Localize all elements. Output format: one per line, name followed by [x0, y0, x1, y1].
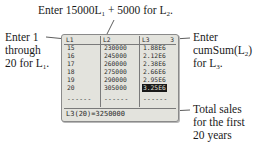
cell-l1[interactable]: 19	[64, 76, 100, 84]
column-l1: 15 16 17 18 19 20 ------	[64, 44, 101, 107]
header-l3[interactable]: L33	[140, 36, 176, 44]
list-data-grid: 15 16 17 18 19 20 ------ 230000 245000 2…	[64, 44, 176, 107]
annotation-enter-l1: Enter 1 through 20 for L1.	[5, 31, 49, 70]
cell-l2[interactable]: 305000	[101, 84, 139, 92]
cell-l1[interactable]: 20	[64, 84, 100, 92]
annotation-enter-l2: Enter 15000L1 + 5000 for L2.	[38, 4, 173, 17]
cell-l3[interactable]: 1.88E6	[140, 44, 176, 52]
cell-l3[interactable]: 2.12E6	[140, 52, 176, 60]
cell-l1[interactable]: 18	[64, 68, 100, 76]
column-number: 3	[170, 36, 174, 43]
cell-l3[interactable]: 2.66E6	[140, 68, 176, 76]
cell-l1[interactable]: 17	[64, 60, 100, 68]
cell-l2[interactable]: 290000	[101, 76, 139, 84]
status-line: L3(20)=3250000	[64, 108, 176, 119]
column-l3: 1.88E6 2.12E6 2.38E6 2.66E6 2.95E6 3.25E…	[140, 44, 176, 107]
cell-l2[interactable]: 275000	[101, 68, 139, 76]
empty-row-dashes: ------	[67, 95, 92, 102]
header-l2[interactable]: L2	[101, 36, 140, 44]
cell-l3-selected[interactable]: 3.25E6	[142, 84, 167, 92]
empty-row-dashes: ------	[104, 95, 129, 102]
cell-l1[interactable]: 15	[64, 44, 100, 52]
column-l2: 230000 245000 260000 275000 290000 30500…	[101, 44, 140, 107]
cell-l3[interactable]: 2.38E6	[140, 60, 176, 68]
empty-row-dashes: ------	[143, 95, 168, 102]
cell-l1[interactable]: 16	[64, 52, 100, 60]
cell-l3[interactable]: 2.95E6	[140, 76, 176, 84]
calculator-list-editor: L1 L2 L33 15 16 17 18 19 20 ------ 23000…	[61, 34, 179, 122]
header-l1[interactable]: L1	[64, 36, 101, 44]
cell-l2[interactable]: 260000	[101, 60, 139, 68]
annotation-enter-l3: Enter cumSum(L2) for L3.	[193, 31, 252, 70]
cell-l2[interactable]: 245000	[101, 52, 139, 60]
annotation-total-sales: Total sales for the first 20 years	[193, 103, 245, 142]
cell-l2[interactable]: 230000	[101, 44, 139, 52]
